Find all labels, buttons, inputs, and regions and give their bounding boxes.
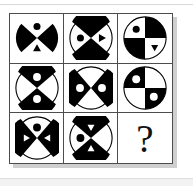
page-rule-top — [0, 4, 193, 5]
matrix-cell-row1-col1[interactable]: Black circle with white vertical bowtie;… — [10, 14, 64, 64]
figure-white-disc-vertical-bowtie-icon — [69, 16, 113, 60]
figure-black-disc-vertical-bowtie-icon — [15, 16, 59, 60]
matrix-puzzle-figure: Black circle with white vertical bowtie;… — [0, 0, 193, 186]
matrix-cell-row2-col1[interactable]: White circle with black vertical bowtie;… — [10, 64, 64, 114]
matrix-cell-row1-col2[interactable]: White circle with black vertical bowtie;… — [64, 14, 118, 64]
figure-horizontal-bowtie-dot-and-triangles-icon — [15, 116, 59, 160]
matrix-cell-row3-col3-missing[interactable]: Empty cell containing a large question m… — [118, 113, 172, 163]
matrix-cell-row2-col2[interactable]: White circle with black horizontal bowti… — [64, 64, 118, 114]
figure-vertical-bowtie-two-white-dots-icon — [15, 66, 59, 110]
matrix-cell-row3-col2[interactable]: White circle with black vertical bowtie;… — [64, 113, 118, 163]
figure-quadrant-disc-white-dots-icon — [123, 66, 167, 110]
question-mark-placeholder: ? — [136, 119, 153, 158]
figure-vertical-bowtie-dot-and-triangles-icon — [69, 116, 113, 160]
figure-horizontal-bowtie-two-white-dots-icon — [69, 66, 113, 110]
matrix-grid: Black circle with white vertical bowtie;… — [9, 13, 173, 164]
figure-quadrant-disc-diagonal-black-icon — [123, 16, 167, 60]
page-bottom-band — [0, 179, 193, 186]
matrix-cell-row2-col3[interactable]: Circle in four quadrants; top-left and b… — [118, 64, 172, 114]
matrix-cell-row1-col3[interactable]: Circle in four quadrants; top-right and … — [118, 14, 172, 64]
matrix-cell-row3-col1[interactable]: White circle with black horizontal bowti… — [10, 113, 64, 163]
